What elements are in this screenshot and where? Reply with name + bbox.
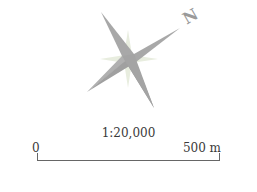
compass-main-points <box>87 12 180 108</box>
scale-bar <box>37 153 220 161</box>
north-label: N <box>179 5 201 29</box>
scale-ratio: 1:20,000 <box>0 126 257 140</box>
compass-rose-icon: N <box>0 0 257 125</box>
